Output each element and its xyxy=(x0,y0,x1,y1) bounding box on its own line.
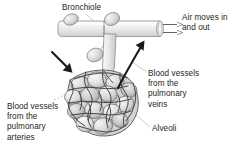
figure-canvas: Bronchiole Air moves in and out Blood ve… xyxy=(0,0,237,155)
blood-in-arrow xyxy=(52,52,73,73)
tube-opening xyxy=(157,21,164,37)
label-blood-vessels-pulmonary-arteries: Blood vessels from the pulmonary arterie… xyxy=(7,102,58,143)
label-air-moves-in-and-out: Air moves in and out xyxy=(182,13,228,33)
bronchiole-stem xyxy=(103,34,117,75)
label-alveoli: Alveoli xyxy=(152,124,176,134)
bronchiole-tube xyxy=(58,10,163,75)
leader-alveoli xyxy=(136,115,150,127)
leader-veins xyxy=(132,62,147,72)
air-flow-arrows xyxy=(163,25,177,33)
label-blood-vessels-pulmonary-veins: Blood vessels from the pulmonary veins xyxy=(148,69,199,110)
alveoli-cluster xyxy=(64,70,139,136)
label-bronchiole: Bronchiole xyxy=(62,3,101,13)
bronchiole-bud-lower xyxy=(85,46,105,64)
